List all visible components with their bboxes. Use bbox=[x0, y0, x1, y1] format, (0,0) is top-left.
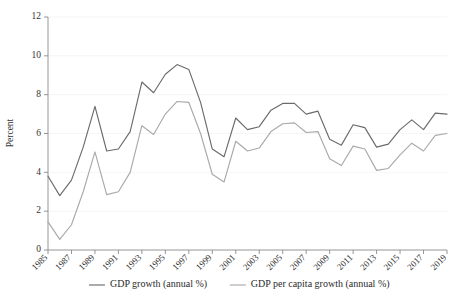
y-axis-title: Percent bbox=[5, 118, 15, 147]
series-line-2 bbox=[48, 101, 447, 239]
x-tick-label: 2019 bbox=[429, 252, 449, 272]
x-tick-label: 1987 bbox=[53, 252, 73, 272]
x-tick-label: 1993 bbox=[123, 252, 143, 272]
x-tick-label: 2001 bbox=[217, 252, 237, 272]
x-axis: 1985198719891991199319951997199920012003… bbox=[30, 250, 449, 272]
gridlines bbox=[48, 17, 447, 211]
x-tick-label: 1997 bbox=[170, 252, 190, 272]
x-tick-label: 1989 bbox=[77, 252, 97, 272]
y-tick-label: 0 bbox=[36, 244, 41, 254]
y-tick-label: 6 bbox=[36, 128, 41, 138]
chart-container: 024681012 198519871989199119931995199719… bbox=[0, 0, 455, 302]
series-line-1 bbox=[48, 65, 447, 196]
legend-label-2: GDP per capita growth (annual %) bbox=[251, 278, 390, 290]
legend: GDP growth (annual %)GDP per capita grow… bbox=[89, 278, 390, 290]
legend-label-1: GDP growth (annual %) bbox=[110, 278, 207, 290]
x-tick-label: 2015 bbox=[382, 252, 402, 272]
x-tick-label: 1985 bbox=[30, 252, 50, 272]
x-tick-label: 2005 bbox=[264, 252, 284, 272]
x-tick-label: 2013 bbox=[358, 252, 378, 272]
x-tick-label: 2011 bbox=[335, 252, 355, 272]
x-tick-label: 2007 bbox=[288, 252, 308, 272]
x-tick-label: 1999 bbox=[194, 252, 214, 272]
y-tick-label: 10 bbox=[32, 50, 42, 60]
x-tick-label: 2017 bbox=[405, 252, 425, 272]
y-axis: 024681012 bbox=[32, 11, 49, 254]
line-chart-svg: 024681012 198519871989199119931995199719… bbox=[0, 0, 455, 302]
x-tick-label: 1991 bbox=[100, 252, 120, 272]
x-tick-label: 2003 bbox=[241, 252, 261, 272]
y-tick-label: 12 bbox=[32, 11, 42, 21]
series-lines bbox=[48, 65, 447, 240]
y-tick-label: 8 bbox=[36, 89, 41, 99]
x-tick-label: 1995 bbox=[147, 252, 167, 272]
y-tick-label: 4 bbox=[36, 167, 41, 177]
x-tick-label: 2009 bbox=[311, 252, 331, 272]
y-tick-label: 2 bbox=[36, 205, 41, 215]
